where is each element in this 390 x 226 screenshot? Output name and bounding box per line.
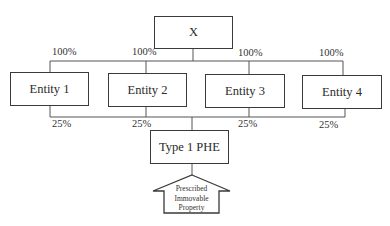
entity-1-label: Entity 1	[30, 82, 70, 97]
arrow-label-line-3: Property	[164, 203, 219, 213]
pct-top-entity-3: 100%	[238, 47, 263, 58]
node-x-label: X	[189, 25, 198, 40]
pct-phe-entity-2: 25%	[132, 118, 151, 129]
arrow-label-line-2: Immovable	[164, 194, 219, 204]
entity-4-label: Entity 4	[322, 85, 362, 100]
arrow-label-line-1: Prescribed	[164, 184, 219, 194]
entity-3-label: Entity 3	[225, 84, 265, 99]
entity-1-box: Entity 1	[10, 72, 89, 106]
entity-3-box: Entity 3	[205, 74, 285, 108]
pct-phe-entity-4: 25%	[319, 119, 338, 130]
entity-2-box: Entity 2	[108, 73, 187, 107]
entity-4-box: Entity 4	[302, 75, 382, 109]
pct-phe-entity-1: 25%	[52, 118, 71, 129]
node-x: X	[154, 16, 233, 49]
type-1-phe-box: Type 1 PHE	[150, 130, 229, 164]
pct-top-entity-4: 100%	[319, 47, 344, 58]
pct-top-entity-1: 100%	[52, 46, 77, 57]
arrow-label: Prescribed Immovable Property	[164, 184, 219, 213]
entity-2-label: Entity 2	[128, 83, 168, 98]
type-1-phe-label: Type 1 PHE	[159, 140, 220, 155]
pct-top-entity-2: 100%	[132, 46, 157, 57]
pct-phe-entity-3: 25%	[238, 118, 257, 129]
